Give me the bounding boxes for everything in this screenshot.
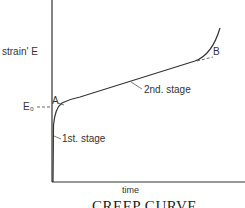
creep-curve-plot (0, 0, 245, 208)
point-b-label: B (213, 47, 220, 57)
e0-label: E₀ (23, 102, 34, 112)
stage2-leader (131, 82, 142, 89)
stage1-label: 1st. stage (62, 134, 105, 144)
creep-curve (53, 28, 220, 182)
x-axis-label: time (122, 186, 139, 195)
stage2-label: 2nd. stage (144, 85, 191, 95)
point-a-label: A (52, 96, 59, 106)
chart-title: CREEP CURVE (92, 198, 197, 208)
stage1-leader (54, 136, 61, 139)
y-axis-label: strain' E (2, 47, 38, 57)
